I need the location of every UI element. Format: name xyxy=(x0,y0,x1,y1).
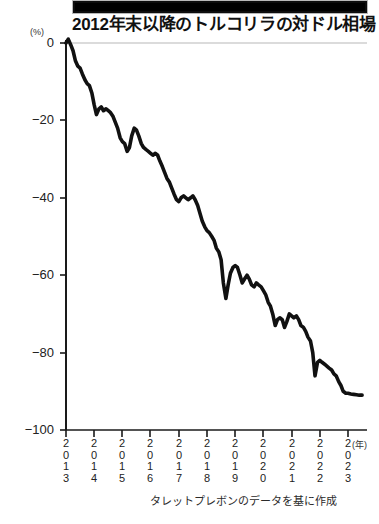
x-tick-digit: 2 xyxy=(141,438,159,450)
x-tick-digit: 2 xyxy=(57,438,75,450)
x-tick-digit: 2 xyxy=(226,438,244,450)
x-tick-label-2017: 2 0 1 7 xyxy=(170,438,188,484)
x-tick-label-2021: 2 0 2 1 xyxy=(283,438,301,484)
x-tick-digit: 2 xyxy=(113,438,131,450)
x-tick-label-2013: 2 0 1 3 xyxy=(57,438,75,484)
x-tick-digit: 8 xyxy=(198,473,216,485)
y-tick-label-60: −60 xyxy=(0,268,54,281)
x-tick-label-2014: 2 0 1 4 xyxy=(85,438,103,484)
x-tick-digit: 3 xyxy=(57,473,75,485)
x-tick-digit: 1 xyxy=(283,473,301,485)
figure-root: 2012年末以降のトルコリラの対ドル相場 (%) xyxy=(0,0,379,524)
x-tick-digit: 0 xyxy=(254,473,272,485)
x-tick-label-2020: 2 0 2 0 xyxy=(254,438,272,484)
y-tick-label-80: −80 xyxy=(0,346,54,359)
x-tick-label-2015: 2 0 1 5 xyxy=(113,438,131,484)
y-tick-label-100: −100 xyxy=(0,423,54,436)
y-tick-label-0: 0 xyxy=(0,36,54,49)
x-tick-digit: 4 xyxy=(85,473,103,485)
x-tick-digit: 5 xyxy=(113,473,131,485)
x-tick-digit: 2 xyxy=(311,438,329,450)
x-tick-digit: 2 xyxy=(170,438,188,450)
x-tick-label-2019: 2 0 1 9 xyxy=(226,438,244,484)
x-tick-digit: 2 xyxy=(283,438,301,450)
x-tick-digit: 3 xyxy=(339,473,357,485)
x-tick-digit: 7 xyxy=(170,473,188,485)
x-tick-label-2016: 2 0 1 6 xyxy=(141,438,159,484)
x-tick-label-2022: 2 0 2 2 xyxy=(311,438,329,484)
x-tick-digit: 2 xyxy=(85,438,103,450)
price-line-series xyxy=(66,39,362,395)
y-tick-label-40: −40 xyxy=(0,191,54,204)
x-tick-digit: 2 xyxy=(311,473,329,485)
x-tick-digit: 2 xyxy=(198,438,216,450)
x-axis-ticks xyxy=(66,430,348,437)
source-note: タレットプレボンのデータを基に作成 xyxy=(150,494,375,508)
y-tick-label-20: −20 xyxy=(0,113,54,126)
x-axis-unit-label: (年) xyxy=(352,440,367,450)
x-tick-label-2018: 2 0 1 8 xyxy=(198,438,216,484)
x-tick-digit: 9 xyxy=(226,473,244,485)
x-tick-digit: 6 xyxy=(141,473,159,485)
x-tick-digit: 2 xyxy=(254,438,272,450)
